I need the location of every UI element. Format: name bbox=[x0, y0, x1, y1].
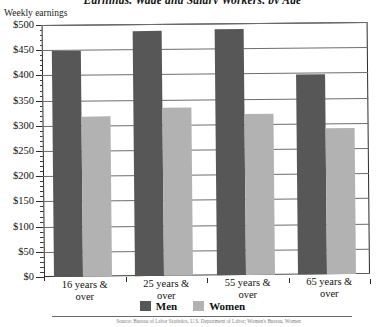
x-axis-category-label: 65 years &over bbox=[289, 276, 371, 300]
x-axis-category-label: 55 years &over bbox=[207, 277, 289, 301]
chart-title: Earnings, Wage and Salary Workers, by Ag… bbox=[0, 0, 385, 4]
y-axis-tick-label: $50 bbox=[18, 247, 34, 257]
y-axis-tick-label: $0 bbox=[24, 272, 35, 282]
legend-label: Women bbox=[209, 300, 245, 312]
bar-men-2 bbox=[214, 29, 245, 276]
x-axis-label-line2: over bbox=[207, 289, 289, 301]
y-axis-tick-label: $250 bbox=[13, 146, 34, 156]
x-axis-label-line1: 16 years & bbox=[44, 279, 126, 291]
chart-legend: MenWomen bbox=[0, 300, 385, 312]
legend-item-women: Women bbox=[193, 300, 245, 312]
bar-men-0 bbox=[52, 51, 83, 277]
x-axis-tick bbox=[126, 277, 127, 282]
legend-item-men: Men bbox=[140, 300, 177, 312]
bar-series-layer bbox=[42, 22, 370, 277]
x-axis-label-line1: 65 years & bbox=[289, 276, 371, 288]
legend-swatch-icon bbox=[193, 301, 204, 311]
bar-men-3 bbox=[296, 75, 327, 275]
y-axis-tick-label: $150 bbox=[13, 196, 34, 206]
y-axis-tick-label: $300 bbox=[13, 121, 34, 131]
x-axis-label-line2: over bbox=[289, 288, 371, 300]
y-axis-tick-label: $350 bbox=[13, 96, 34, 106]
legend-label: Men bbox=[156, 300, 177, 312]
y-axis-tick-label: $400 bbox=[13, 70, 34, 80]
x-axis-label-line1: 25 years & bbox=[126, 278, 208, 290]
x-axis-label-line1: 55 years & bbox=[207, 277, 289, 289]
footnote: Source: Bureau of Labor Statistics, U.S.… bbox=[36, 318, 381, 324]
plot-area bbox=[44, 25, 370, 277]
x-axis-tick bbox=[44, 276, 45, 281]
legend-swatch-icon bbox=[140, 301, 151, 311]
bar-women-3 bbox=[326, 128, 356, 274]
footnote-divider bbox=[52, 316, 352, 317]
x-axis-tick bbox=[370, 279, 371, 284]
bar-women-0 bbox=[81, 116, 112, 277]
y-axis-tick-label: $500 bbox=[13, 20, 34, 30]
y-axis-tick-label: $200 bbox=[13, 171, 34, 181]
bar-women-1 bbox=[163, 108, 194, 276]
x-axis-tick bbox=[207, 278, 208, 283]
y-axis: $500$450$400$350$300$250$200$150$100$50$… bbox=[0, 25, 44, 277]
y-axis-tick-label: $450 bbox=[13, 45, 34, 55]
y-axis-tick-label: $100 bbox=[13, 222, 34, 232]
bar-women-2 bbox=[244, 114, 275, 276]
x-axis-category-label: 25 years &over bbox=[126, 278, 208, 302]
bar-men-1 bbox=[133, 30, 164, 276]
y-axis-caption: Weekly earnings bbox=[4, 8, 67, 18]
x-axis-tick bbox=[289, 278, 290, 283]
y-axis-major-tick bbox=[36, 277, 44, 278]
